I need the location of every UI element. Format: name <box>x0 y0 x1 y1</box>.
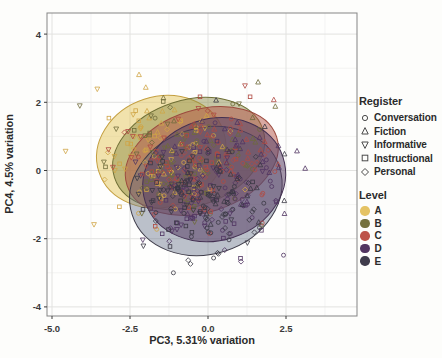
y-tick-label: -2 <box>33 233 41 244</box>
legend-register-title: Register <box>359 95 441 107</box>
pca-figure: -5.0-2.50.02.5420-2-4 PC3, 5.31% variati… <box>0 0 442 358</box>
x-tick-label: 0.0 <box>202 323 215 334</box>
legend-item-label: Fiction <box>374 126 406 137</box>
legend-item-register-personal: Personal <box>359 165 441 179</box>
circle-icon <box>360 113 370 123</box>
level-color-dot <box>360 231 370 241</box>
legend-item-label: A <box>375 205 382 216</box>
legend-item-label: C <box>375 230 382 241</box>
legend-item-level-d: D <box>359 242 441 255</box>
legend-item-label: Informative <box>374 139 427 150</box>
y-tick-label: 2 <box>36 97 41 108</box>
legend-item-label: Instructional <box>374 153 433 164</box>
legend-item-label: Personal <box>374 166 415 177</box>
x-tick-label: -2.5 <box>122 323 139 334</box>
legend-level-title: Level <box>359 189 441 201</box>
legend-level-items: ABCDE <box>359 205 441 268</box>
legend-item-label: B <box>375 218 382 229</box>
legend-item-level-e: E <box>359 255 441 268</box>
legend-item-level-a: A <box>359 205 441 218</box>
y-axis-title: PC4, 4.5% variation <box>3 114 15 214</box>
diamond-icon <box>360 167 370 177</box>
triangle-up-icon <box>360 126 370 136</box>
legend-item-label: Conversation <box>374 112 437 123</box>
legend-item-label: E <box>375 256 382 267</box>
legend-panel: Register ConversationFictionInformativeI… <box>359 95 441 267</box>
x-tick-label: 2.5 <box>280 323 294 334</box>
x-tick-label: -5.0 <box>44 323 60 334</box>
y-tick-label: -4 <box>33 301 42 312</box>
level-color-dot <box>360 256 370 266</box>
level-color-dot <box>360 206 370 216</box>
legend-item-level-c: C <box>359 230 441 243</box>
level-color-dot <box>360 244 370 254</box>
legend-item-register-instructional: Instructional <box>359 152 441 166</box>
legend-item-register-fiction: Fiction <box>359 125 441 139</box>
legend-item-register-informative: Informative <box>359 138 441 152</box>
triangle-down-icon <box>360 140 370 150</box>
legend-item-label: D <box>375 243 382 254</box>
legend-register-items: ConversationFictionInformativeInstructio… <box>359 111 441 179</box>
square-icon <box>360 153 370 163</box>
y-tick-label: 4 <box>36 29 42 40</box>
x-axis-title: PC3, 5.31% variation <box>149 334 255 346</box>
level-color-dot <box>360 219 370 229</box>
legend-item-level-b: B <box>359 217 441 230</box>
legend-item-register-conversation: Conversation <box>359 111 441 125</box>
y-tick-label: 0 <box>36 165 41 176</box>
